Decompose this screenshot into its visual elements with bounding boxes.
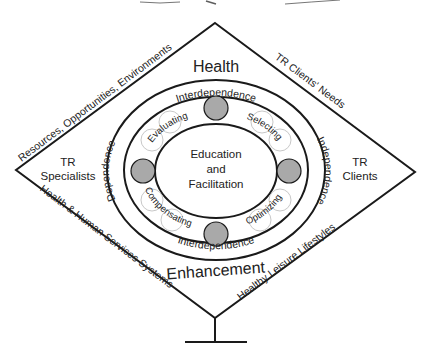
center-line1: Education: [190, 148, 241, 160]
node-left: [131, 159, 155, 183]
side-label-right-line2: Clients: [342, 170, 377, 182]
band-label-left: Dependence: [99, 138, 118, 204]
process-label-evaluating: Evaluating: [145, 110, 189, 145]
center-line2: and: [206, 163, 225, 175]
process-label-optimizing: Optimizing: [244, 192, 284, 227]
diagram-canvas: Resources, Opportunities, Environments T…: [0, 0, 433, 359]
node-right: [277, 159, 301, 183]
ring-title-top: Health: [193, 58, 239, 75]
edge-label-upper-left: Resources, Opportunities, Environments: [15, 41, 173, 164]
node-top: [204, 96, 228, 120]
side-label-right-line1: TR: [352, 156, 367, 168]
ring-title-bottom: Enhancement: [166, 259, 266, 283]
edge-label-upper-right: TR Clients' Needs: [273, 50, 348, 110]
center-line3: Facilitation: [189, 178, 244, 190]
side-label-left-line2: Specialists: [41, 170, 96, 182]
top-crop-artifact: [140, 0, 340, 4]
side-label-left-line1: TR: [60, 156, 75, 168]
band-label-right: Independence: [315, 134, 335, 207]
